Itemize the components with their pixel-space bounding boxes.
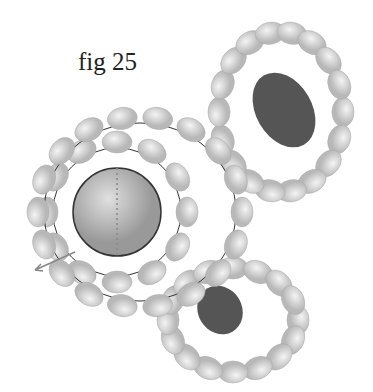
bead	[161, 229, 195, 266]
bead	[332, 97, 354, 127]
bead	[141, 105, 174, 132]
bead	[161, 159, 195, 196]
bead	[231, 197, 253, 227]
bead	[102, 131, 132, 153]
bead	[134, 256, 171, 290]
bead	[102, 271, 132, 293]
bead	[106, 105, 139, 132]
bead	[173, 113, 210, 147]
stone	[240, 61, 328, 158]
bead	[106, 292, 139, 319]
center-ball	[73, 168, 161, 256]
bead	[134, 134, 171, 168]
bead	[176, 197, 198, 227]
bead	[208, 97, 230, 127]
bead	[27, 197, 49, 227]
bead	[220, 227, 251, 263]
bead-diagram	[0, 0, 373, 392]
